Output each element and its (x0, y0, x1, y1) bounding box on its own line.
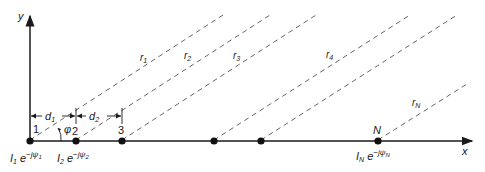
ray-label-2: r2 (184, 50, 191, 62)
current-label-2: I2e−jψ2 (57, 150, 89, 165)
ray-label-3: r3 (233, 50, 240, 62)
current-label-1: I1e−jψ1 (10, 150, 42, 165)
element-N (374, 137, 381, 144)
x-axis-label: x (461, 145, 468, 157)
element-5 (257, 137, 264, 144)
element-label-N: N (373, 124, 381, 136)
spacing-label-d2: d2 (89, 110, 99, 123)
ray-label-N: rN (412, 97, 421, 109)
angle-label-phi: φ (64, 123, 71, 135)
element-label-1: 1 (33, 123, 39, 135)
current-label-N: INe−jψN (356, 148, 391, 163)
ray-5 (261, 15, 457, 140)
element-3 (118, 137, 125, 144)
ray-2 (76, 15, 270, 140)
y-axis-label: y (17, 10, 25, 22)
element-label-2: 2 (72, 125, 78, 137)
ray-N (378, 84, 467, 140)
element-1 (26, 137, 33, 144)
spacing-label-d1: d1 (45, 110, 55, 123)
ray-4 (214, 15, 410, 140)
ray-3 (122, 15, 316, 140)
ray-label-1: r1 (140, 52, 147, 64)
element-4 (210, 137, 217, 144)
ray-label-4: r4 (326, 49, 333, 61)
ray-1 (30, 15, 223, 140)
element-2 (72, 137, 79, 144)
element-label-3: 3 (118, 124, 124, 136)
array-diagram: y x r1 r2 r3 r4 rN d1 d2 φ 1 (0, 0, 485, 172)
